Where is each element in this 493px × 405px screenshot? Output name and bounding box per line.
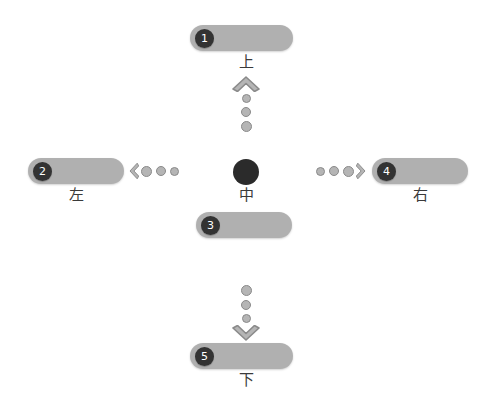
badge-center: 3: [201, 216, 220, 235]
direction-bar-right[interactable]: 4: [372, 158, 468, 184]
center-label: 中: [228, 183, 264, 204]
arrow-dot: [242, 94, 251, 103]
arrow-dot: [156, 166, 166, 176]
arrow-dot: [329, 166, 339, 176]
chevron-left-icon: [127, 154, 139, 188]
arrow-dot: [141, 166, 152, 177]
arrow-dot: [241, 300, 251, 310]
center-node: [233, 159, 259, 185]
arrow-dot: [242, 314, 251, 323]
direction-label-left: 左: [58, 183, 94, 204]
direction-diagram-canvas: 1 上 2 左 中 3 4 右: [0, 0, 493, 405]
arrow-dot: [343, 166, 354, 177]
direction-bar-left[interactable]: 2: [28, 158, 124, 184]
arrow-dot: [241, 107, 251, 117]
arrow-down: [228, 283, 264, 345]
arrow-dot: [316, 167, 325, 176]
badge-down: 5: [195, 347, 214, 366]
arrow-dot: [170, 167, 179, 176]
badge-up: 1: [195, 29, 214, 48]
direction-label-up: 上: [228, 50, 264, 71]
arrow-left: [127, 160, 181, 182]
arrow-dot: [241, 285, 252, 296]
chevron-right-icon: [356, 154, 368, 188]
arrow-right: [314, 160, 368, 182]
arrow-dot: [241, 121, 252, 132]
direction-bar-center[interactable]: 3: [196, 212, 292, 238]
arrow-up: [228, 72, 264, 134]
direction-bar-up[interactable]: 1: [190, 25, 293, 51]
chevron-down-icon: [229, 325, 263, 345]
chevron-up-icon: [229, 72, 263, 92]
direction-label-down: 下: [228, 368, 264, 389]
badge-left: 2: [33, 162, 52, 181]
direction-label-right: 右: [402, 183, 438, 204]
direction-bar-down[interactable]: 5: [190, 343, 293, 369]
badge-right: 4: [377, 162, 396, 181]
